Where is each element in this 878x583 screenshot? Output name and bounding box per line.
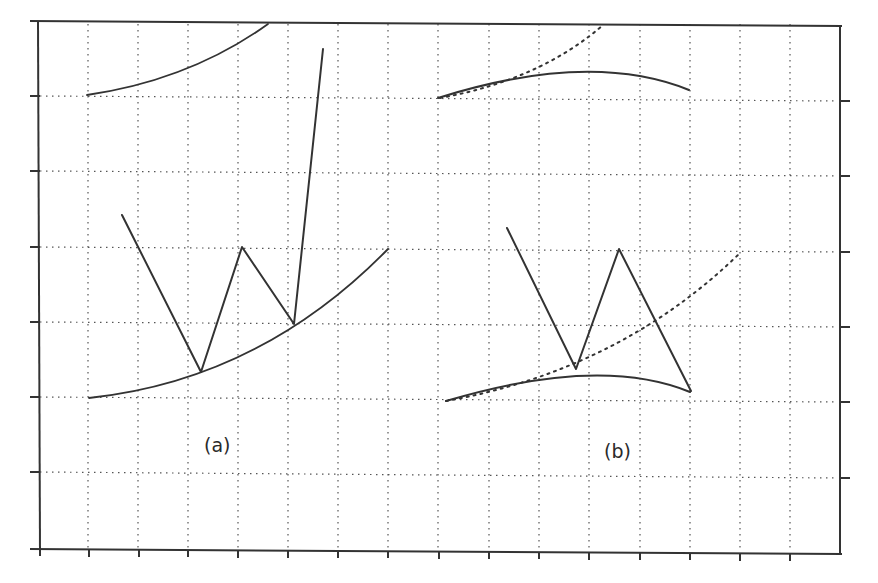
panel-b xyxy=(438,25,740,401)
panel-b-upper-boundary-arc xyxy=(438,72,689,98)
diagram-figure xyxy=(0,0,878,583)
panel-b-upper-boundary-dotted-reference xyxy=(440,25,603,98)
panel-a-upper-boundary-curve xyxy=(87,24,268,95)
panel-b-lower-boundary-dotted-reference xyxy=(446,253,740,401)
panel-b-label: (b) xyxy=(604,442,631,461)
axis-ticks xyxy=(30,96,850,561)
grid-vertical xyxy=(88,24,790,549)
panel-a-label: (a) xyxy=(204,436,230,455)
grid-horizontal xyxy=(40,96,838,478)
panel-b-lower-boundary-arc xyxy=(446,376,690,401)
panel-b-zigzag-path xyxy=(507,228,691,391)
